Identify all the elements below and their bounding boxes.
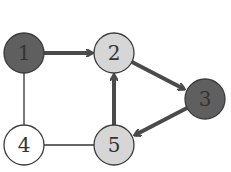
node-1-label: 1 xyxy=(18,41,31,65)
node-2-label: 2 xyxy=(108,41,121,65)
node-3: 3 xyxy=(185,79,225,119)
graph-diagram: 1 2 3 4 5 xyxy=(0,0,231,172)
node-5-label: 5 xyxy=(108,133,121,157)
node-1: 1 xyxy=(4,33,44,73)
edge-2-to-3 xyxy=(132,62,184,89)
node-4-label: 4 xyxy=(18,133,31,157)
node-2: 2 xyxy=(94,33,134,73)
node-4: 4 xyxy=(4,125,44,165)
edge-3-to-5 xyxy=(135,108,187,135)
node-5: 5 xyxy=(94,125,134,165)
node-3-label: 3 xyxy=(199,87,212,111)
